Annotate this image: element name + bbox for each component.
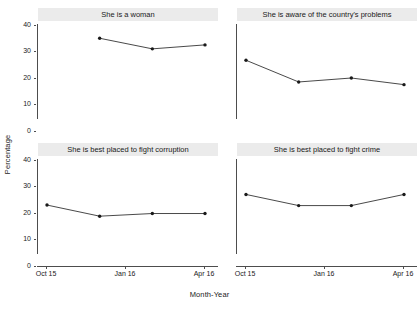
data-point: [151, 47, 154, 50]
panel-title-strip-0: She is a woman: [38, 8, 218, 21]
y-tick-2-0: [34, 266, 37, 267]
data-point: [350, 76, 353, 79]
x-axis-title: Month-Year: [0, 290, 419, 299]
y-tick-0-30: [34, 51, 37, 52]
series-svg-2: [38, 156, 218, 267]
x-tick-3-jan16: [324, 266, 325, 269]
panel-she-is-a-woman: She is a woman: [38, 8, 218, 132]
data-point: [402, 83, 405, 86]
plot-area-1: [237, 21, 417, 132]
series-svg-1: [237, 21, 417, 132]
data-point: [151, 212, 154, 215]
panel-best-placed-to-fight-corruption: She is best placed to fight corruption: [38, 143, 218, 267]
x-tick-2-oct15: [46, 266, 47, 269]
y-tick-label-0-10: 10: [15, 100, 31, 108]
panel-title-strip-1: She is aware of the country's problems: [237, 8, 417, 21]
x-tick-2-apr16: [204, 266, 205, 269]
panel-aware-of-countrys-problems: She is aware of the country's problems: [237, 8, 417, 132]
data-point: [402, 193, 405, 196]
plot-area-3: [237, 156, 417, 267]
y-tick-2-20: [34, 213, 37, 214]
x-tick-label-2-oct15: Oct 15: [29, 270, 63, 278]
y-tick-label-0-20: 20: [15, 74, 31, 82]
data-point: [244, 59, 247, 62]
y-tick-label-2-0: 0: [15, 262, 31, 270]
y-axis-line-1: [236, 24, 237, 119]
x-axis-line-2: [37, 266, 218, 267]
y-tick-0-40: [34, 25, 37, 26]
y-axis-line-3: [236, 159, 237, 254]
panel-title-strip-3: She is best placed to fight crime: [237, 143, 417, 156]
series-line: [47, 205, 205, 216]
y-tick-2-40: [34, 160, 37, 161]
data-point: [98, 37, 101, 40]
series-svg-0: [38, 21, 218, 132]
x-tick-label-3-jan16: Jan 16: [307, 270, 341, 278]
plot-area-2: [38, 156, 218, 267]
x-axis-line-3: [236, 266, 417, 267]
data-point: [297, 80, 300, 83]
y-axis-line-2: [37, 159, 38, 254]
y-tick-label-2-40: 40: [15, 156, 31, 164]
chart-figure: Percentage Month-Year She is a woman 40 …: [0, 0, 419, 309]
data-point: [244, 193, 247, 196]
y-axis-line-0: [37, 24, 38, 119]
y-tick-label-2-30: 30: [15, 182, 31, 190]
plot-area-0: [38, 21, 218, 132]
panel-title-strip-2: She is best placed to fight corruption: [38, 143, 218, 156]
x-tick-label-3-oct15: Oct 15: [228, 270, 262, 278]
y-tick-label-0-0: 0: [15, 127, 31, 135]
y-tick-0-10: [34, 104, 37, 105]
series-line: [246, 194, 404, 205]
data-point: [45, 203, 48, 206]
x-tick-label-2-apr16: Apr 16: [187, 270, 221, 278]
x-tick-label-3-apr16: Apr 16: [386, 270, 419, 278]
data-point: [203, 43, 206, 46]
y-tick-label-0-40: 40: [15, 21, 31, 29]
x-tick-3-oct15: [245, 266, 246, 269]
data-point: [297, 204, 300, 207]
data-point: [98, 214, 101, 217]
data-point: [203, 212, 206, 215]
x-tick-2-jan16: [125, 266, 126, 269]
y-tick-2-30: [34, 186, 37, 187]
y-tick-0-0: [34, 131, 37, 132]
y-tick-label-0-30: 30: [15, 47, 31, 55]
series-line: [246, 60, 404, 84]
data-point: [350, 204, 353, 207]
x-tick-3-apr16: [403, 266, 404, 269]
series-svg-3: [237, 156, 417, 267]
panel-best-placed-to-fight-crime: She is best placed to fight crime: [237, 143, 417, 267]
y-tick-label-2-10: 10: [15, 235, 31, 243]
y-tick-2-10: [34, 239, 37, 240]
y-axis-title: Percentage: [0, 0, 14, 309]
y-tick-label-2-20: 20: [15, 209, 31, 217]
y-tick-0-20: [34, 78, 37, 79]
x-tick-label-2-jan16: Jan 16: [108, 270, 142, 278]
